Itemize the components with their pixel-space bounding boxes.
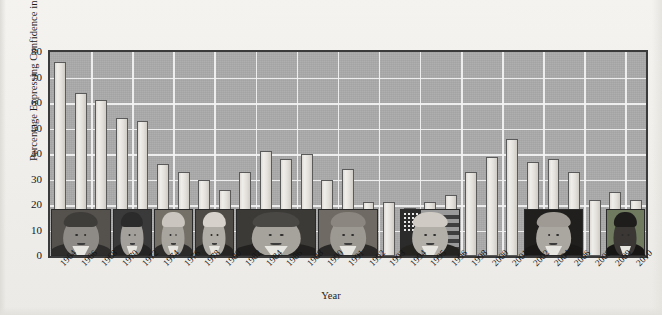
- portrait-mouth: [426, 243, 434, 245]
- portrait-mouth: [550, 243, 558, 245]
- portrait-eye-right: [175, 234, 177, 236]
- portrait-eye-left: [268, 234, 272, 236]
- figure-bottom-shade: [0, 307, 662, 315]
- y-tick-label: 40: [16, 148, 42, 159]
- portrait-hair: [162, 212, 184, 227]
- gridline-vertical: [584, 52, 586, 256]
- portrait-eye-left: [622, 234, 624, 236]
- gridline-vertical: [461, 52, 463, 256]
- portrait-hair: [64, 212, 99, 227]
- portrait-mouth: [344, 243, 352, 245]
- lyndon-b-johnson-portrait: [51, 209, 111, 256]
- bar: [589, 200, 601, 256]
- portrait-hair: [203, 212, 225, 227]
- gridline-horizontal: [50, 78, 646, 80]
- gridline-vertical: [502, 52, 504, 256]
- portrait-eye-right: [351, 234, 354, 236]
- portrait-eye-left: [342, 234, 345, 236]
- portrait-eye-left: [548, 234, 551, 236]
- y-tick-label: 50: [16, 123, 42, 134]
- gridline-vertical: [379, 52, 381, 256]
- portrait-eye-left: [211, 234, 213, 236]
- portrait-eye-right: [280, 234, 284, 236]
- y-tick-label: 80: [16, 46, 42, 57]
- bar: [506, 139, 518, 256]
- bar: [465, 172, 477, 256]
- portrait-mouth: [130, 243, 135, 245]
- x-axis-title: Year: [0, 290, 662, 301]
- portrait-eye-right: [84, 234, 87, 236]
- portrait-mouth: [623, 243, 628, 245]
- portrait-hair: [121, 212, 143, 227]
- portrait-eye-left: [170, 234, 172, 236]
- figure-right-shade: [652, 0, 662, 315]
- y-axis-title: Percentage Expressing Confidence in Gove…: [28, 0, 39, 168]
- portrait-eye-right: [627, 234, 629, 236]
- portrait-eye-right: [134, 234, 136, 236]
- portrait-eye-right: [216, 234, 218, 236]
- y-tick-label: 0: [16, 250, 42, 261]
- bill-clinton-portrait: [400, 209, 460, 256]
- y-tick-label: 10: [16, 225, 42, 236]
- chart-figure: Percentage Expressing Confidence in Gove…: [0, 0, 662, 315]
- george-h-w-bush-portrait: [318, 209, 378, 256]
- bar: [486, 157, 498, 256]
- figure-left-shade: [0, 0, 6, 315]
- y-tick-label: 30: [16, 174, 42, 185]
- gridline-horizontal: [50, 103, 646, 105]
- portrait-eye-left: [75, 234, 78, 236]
- bar: [383, 202, 395, 256]
- portrait-eye-right: [556, 234, 559, 236]
- portrait-mouth: [77, 243, 85, 245]
- portrait-mouth: [212, 243, 217, 245]
- portrait-hair: [331, 212, 366, 227]
- portrait-hair: [253, 212, 300, 227]
- y-tick-label: 70: [16, 72, 42, 83]
- george-w-bush-portrait: [524, 209, 584, 256]
- portrait-eye-left: [424, 234, 427, 236]
- portrait-hair: [614, 212, 636, 227]
- portrait-eye-right: [433, 234, 436, 236]
- y-tick-label: 20: [16, 199, 42, 210]
- plot-area: [48, 50, 648, 258]
- y-tick-label: 60: [16, 97, 42, 108]
- portrait-mouth: [171, 243, 176, 245]
- portrait-mouth: [271, 243, 282, 245]
- portrait-hair: [413, 212, 448, 227]
- portrait-hair: [536, 212, 571, 227]
- portrait-eye-left: [129, 234, 131, 236]
